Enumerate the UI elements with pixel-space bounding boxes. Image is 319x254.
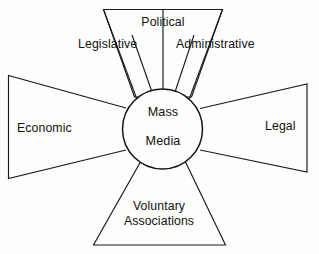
hub-label-line2: Media [146,134,181,148]
sector-label-administrative: Administrative [176,37,255,51]
sector-label-political: Political [141,15,184,29]
diagram-canvas: Legislative Political Administrative Eco… [0,0,319,254]
sector-label-legal: Legal [265,119,296,133]
mass-media-hub-circle [123,89,203,169]
top-sector-left-edge [104,10,138,100]
sector-label-legislative: Legislative [78,37,137,51]
sector-label-voluntary-associations-line1: Voluntary [133,199,185,213]
hub-label-line1: Mass [148,105,179,119]
top-sector-right-edge [189,10,223,100]
sector-label-voluntary-associations-line2: Associations [124,214,194,228]
sector-label-economic: Economic [17,121,72,135]
